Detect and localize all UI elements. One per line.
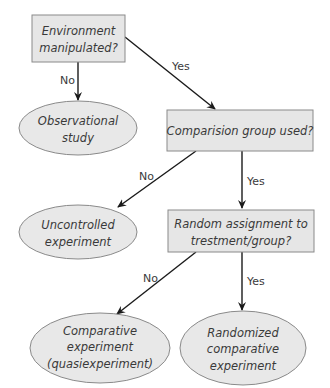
node-label-line: experiment [210,359,277,373]
node-label-line: study [62,131,94,145]
node-label-line: Environment [42,24,116,38]
node-uncontrolled-experiment: Uncontrolled experiment [19,205,137,259]
node-label-line: comparative [207,342,279,356]
edge-comp-unc [118,151,196,207]
edge-label-rand-rce: Yes [246,275,265,288]
node-randomized-comparative-experiment: Randomized comparative experiment [180,311,306,385]
node-label-line: Random assignment to [174,217,308,231]
node-label-line: trestment/group? [191,234,292,248]
edges: No Yes No Yes No Yes [60,37,265,314]
node-label-line: Uncontrolled [41,218,115,232]
node-label-line: Comparision group used? [167,124,314,138]
edge-label-env-obs: No [60,74,75,87]
flowchart: No Yes No Yes No Yes Environment manipul… [0,0,330,388]
node-observational-study: Observational study [19,101,137,155]
edge-label-env-comp: Yes [171,60,190,73]
node-label-line: Observational [38,114,119,128]
edge-env-comp [125,37,215,109]
node-random-assignment: Random assignment to trestment/group? [168,210,314,252]
node-comparative-experiment: Comparative experiment (quasiexperiment) [30,313,170,383]
node-environment-manipulated: Environment manipulated? [32,15,125,62]
node-label-line: Randomized [207,326,279,340]
node-label-line: Comparative [63,324,137,338]
edge-label-comp-rand: Yes [246,175,265,188]
node-label-line: experiment [45,235,112,249]
node-label-line: manipulated? [39,41,118,55]
edge-label-comp-unc: No [139,170,154,183]
node-label-line: experiment [67,340,134,354]
edge-label-rand-quasi: No [143,272,158,285]
node-label-line: (quasiexperiment) [47,357,153,371]
node-comparison-group-used: Comparision group used? [167,110,314,151]
